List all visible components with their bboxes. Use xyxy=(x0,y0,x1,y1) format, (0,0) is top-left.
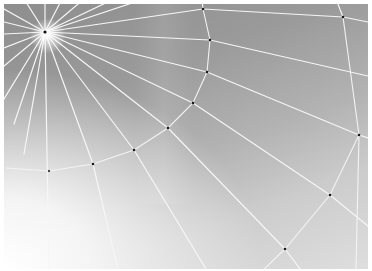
web-hub xyxy=(4,4,368,269)
spider-web-photo xyxy=(4,4,368,269)
hub-node xyxy=(43,30,46,33)
